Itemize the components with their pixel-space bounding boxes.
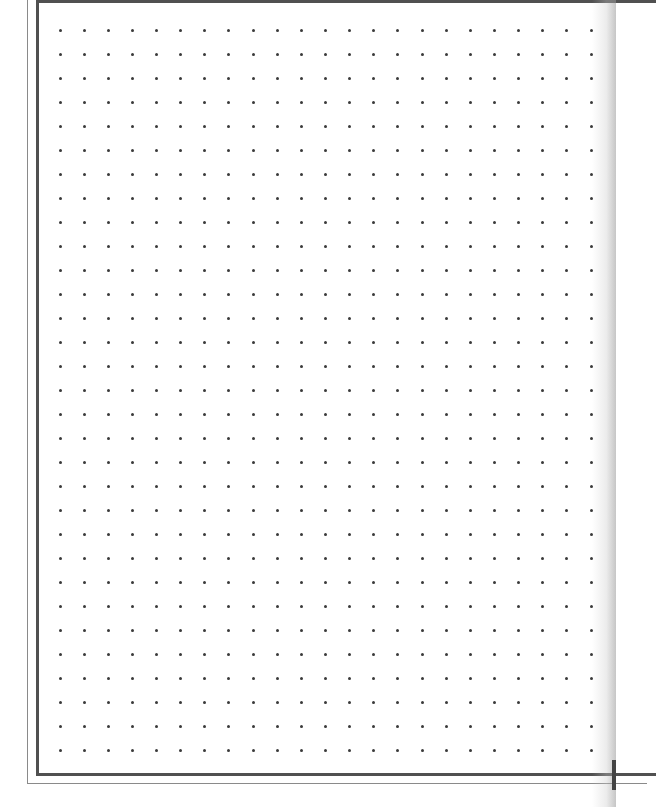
grid-dot	[421, 629, 424, 632]
grid-dot	[445, 221, 448, 224]
grid-dot	[469, 173, 472, 176]
grid-dot	[252, 389, 255, 392]
grid-dot	[203, 413, 206, 416]
grid-dot	[203, 173, 206, 176]
grid-dot	[421, 605, 424, 608]
grid-dot	[469, 77, 472, 80]
grid-dot	[469, 749, 472, 752]
grid-dot	[203, 461, 206, 464]
grid-dot	[469, 677, 472, 680]
grid-dot	[445, 581, 448, 584]
grid-dot	[179, 341, 182, 344]
grid-dot	[469, 485, 472, 488]
grid-dot	[155, 413, 158, 416]
grid-dot	[493, 77, 496, 80]
grid-dot	[324, 533, 327, 536]
grid-dot	[541, 173, 544, 176]
grid-dot	[396, 701, 399, 704]
grid-dot	[421, 77, 424, 80]
grid-dot	[300, 365, 303, 368]
grid-dot	[348, 581, 351, 584]
grid-dot	[517, 269, 520, 272]
grid-dot	[203, 125, 206, 128]
grid-dot	[179, 173, 182, 176]
grid-dot	[541, 557, 544, 560]
grid-dot	[372, 725, 375, 728]
grid-dot	[300, 317, 303, 320]
grid-dot	[252, 149, 255, 152]
grid-dot	[396, 677, 399, 680]
grid-dot	[107, 197, 110, 200]
grid-dot	[421, 341, 424, 344]
grid-dot	[541, 749, 544, 752]
grid-dot	[541, 629, 544, 632]
grid-dot	[517, 581, 520, 584]
grid-dot	[372, 605, 375, 608]
grid-dot	[469, 149, 472, 152]
grid-dot	[252, 653, 255, 656]
grid-dot	[493, 365, 496, 368]
grid-dot	[227, 317, 230, 320]
grid-dot	[59, 533, 62, 536]
grid-dot	[300, 101, 303, 104]
grid-dot	[372, 437, 375, 440]
grid-dot	[107, 101, 110, 104]
grid-dot	[348, 749, 351, 752]
grid-dot	[396, 413, 399, 416]
grid-dot	[107, 485, 110, 488]
grid-dot	[348, 317, 351, 320]
grid-dot	[131, 149, 134, 152]
grid-dot	[179, 509, 182, 512]
grid-dot	[83, 101, 86, 104]
grid-dot	[372, 389, 375, 392]
grid-dot	[83, 509, 86, 512]
grid-dot	[179, 677, 182, 680]
grid-dot	[276, 149, 279, 152]
grid-dot	[252, 605, 255, 608]
grid-dot	[276, 437, 279, 440]
grid-dot	[83, 533, 86, 536]
grid-dot	[83, 653, 86, 656]
grid-dot	[83, 29, 86, 32]
grid-dot	[59, 53, 62, 56]
grid-dot	[396, 557, 399, 560]
grid-dot	[179, 725, 182, 728]
grid-dot	[396, 629, 399, 632]
grid-dot	[83, 605, 86, 608]
grid-dot	[541, 605, 544, 608]
grid-dot	[517, 197, 520, 200]
grid-dot	[469, 341, 472, 344]
grid-dot	[83, 221, 86, 224]
grid-dot	[421, 413, 424, 416]
grid-dot	[83, 125, 86, 128]
grid-dot	[445, 77, 448, 80]
grid-dot	[324, 461, 327, 464]
grid-dot	[300, 461, 303, 464]
grid-dot	[252, 629, 255, 632]
grid-dot	[565, 461, 568, 464]
grid-dot	[565, 509, 568, 512]
grid-dot	[493, 677, 496, 680]
grid-dot	[276, 341, 279, 344]
grid-dot	[203, 341, 206, 344]
grid-dot	[348, 293, 351, 296]
grid-dot	[445, 125, 448, 128]
grid-dot	[59, 173, 62, 176]
grid-dot	[348, 701, 351, 704]
grid-dot	[131, 461, 134, 464]
grid-dot	[131, 53, 134, 56]
grid-dot	[300, 293, 303, 296]
grid-dot	[276, 533, 279, 536]
grid-dot	[203, 221, 206, 224]
grid-dot	[324, 557, 327, 560]
grid-dot	[348, 725, 351, 728]
grid-dot	[276, 221, 279, 224]
grid-dot	[155, 221, 158, 224]
grid-dot	[227, 173, 230, 176]
grid-dot	[276, 29, 279, 32]
grid-dot	[227, 605, 230, 608]
grid-dot	[565, 677, 568, 680]
grid-dot	[131, 293, 134, 296]
grid-dot	[107, 701, 110, 704]
